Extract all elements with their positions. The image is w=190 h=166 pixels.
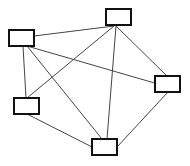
nodes-layer: [9, 9, 180, 155]
node-d: [14, 98, 39, 114]
edge-b-d: [23, 46, 26, 98]
edge-a-e: [107, 26, 116, 139]
edge-b-c: [27, 46, 158, 84]
node-e: [92, 139, 117, 155]
edge-c-e: [117, 92, 168, 147]
edges-layer: [23, 26, 168, 147]
node-c: [155, 76, 180, 92]
node-a: [106, 9, 131, 25]
network-diagram: [0, 0, 190, 166]
node-b: [9, 30, 34, 46]
edge-b-a: [34, 26, 114, 36]
edge-b-e: [27, 46, 102, 139]
edge-d-e: [27, 114, 92, 147]
edge-a-c: [116, 26, 167, 76]
